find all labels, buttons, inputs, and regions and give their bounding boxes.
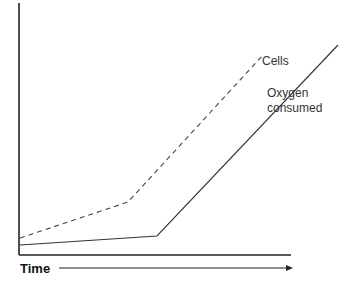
oxygen-label-line2: consumed	[267, 101, 322, 115]
oxygen-label-line1: Oxygen	[267, 86, 308, 100]
x-axis-label: Time	[20, 261, 50, 276]
oxygen-series-line	[20, 45, 338, 245]
arrow-right-icon	[286, 265, 293, 271]
chart-canvas: Cells Oxygen consumed Time	[0, 0, 348, 290]
cells-label: Cells	[262, 54, 289, 68]
cells-series-line	[20, 55, 263, 238]
